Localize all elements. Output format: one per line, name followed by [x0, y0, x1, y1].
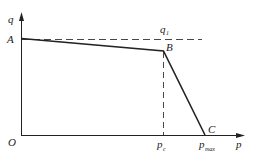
point-c-label: C: [208, 123, 216, 135]
point-b-label: B: [166, 41, 173, 53]
q1-subscript: 1: [166, 30, 169, 36]
pmax-subscript: max: [205, 146, 215, 152]
origin-label: O: [8, 136, 16, 148]
point-a-label: A: [6, 33, 14, 45]
q-p-curve: [22, 39, 206, 136]
pmax-label: p: [198, 138, 205, 150]
pc-subscript: c: [163, 146, 166, 152]
y-axis-arrow-icon: [19, 12, 24, 21]
pq-diagram: q A O B C q 1 p c p max p: [0, 0, 255, 161]
x-axis-label: p: [235, 138, 242, 150]
y-axis-label: q: [8, 13, 14, 25]
pc-label: p: [156, 138, 163, 150]
